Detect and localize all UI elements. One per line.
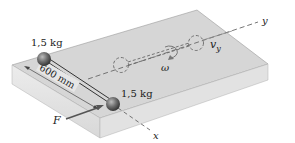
omega-label: ω [161,62,169,73]
mass-lower-label: 1,5 kg [121,88,153,99]
mass-upper-label: 1,5 kg [31,37,63,48]
force-label: F [52,114,61,127]
y-axis-label: y [261,15,268,26]
x-axis-label: x [153,130,159,141]
mass-upper [37,52,51,66]
dumbbell-diagram: y x ω vy 600 mm F 1,5 kg 1,5 kg [0,0,295,143]
velocity-subscript: y [215,44,221,53]
mass-lower [106,97,120,111]
